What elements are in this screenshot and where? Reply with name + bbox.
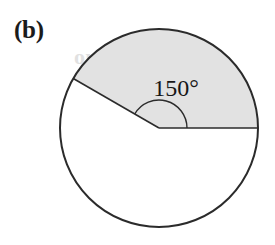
angle-measure-label: 150° [147, 76, 205, 101]
figure-container: out at the beg ty Angles (b) 150° [0, 0, 275, 245]
part-label: (b) [14, 17, 44, 42]
